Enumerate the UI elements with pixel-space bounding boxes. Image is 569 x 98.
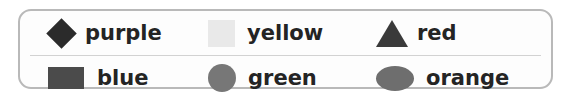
triangle-swatch-icon <box>376 20 408 47</box>
legend-item-label: purple <box>85 23 162 44</box>
legend-row: blue green orange <box>20 56 551 98</box>
legend-item-label: orange <box>426 68 509 89</box>
legend-item-blue[interactable]: blue <box>20 67 208 89</box>
legend-item-label: green <box>248 68 317 89</box>
circle-swatch-icon <box>208 64 236 92</box>
square-swatch-icon <box>208 20 235 47</box>
legend-panel: purple yellow red blue green orange <box>18 9 553 89</box>
legend-item-label: blue <box>97 68 148 89</box>
diamond-swatch-icon <box>46 18 77 49</box>
legend-row: purple yellow red <box>20 11 551 55</box>
legend-item-purple[interactable]: purple <box>20 20 208 47</box>
legend-item-orange[interactable]: orange <box>376 66 551 91</box>
legend-item-label: yellow <box>247 23 323 44</box>
legend-item-label: red <box>417 23 457 44</box>
ellipse-swatch-icon <box>376 66 414 91</box>
legend-item-green[interactable]: green <box>208 64 376 92</box>
legend-item-red[interactable]: red <box>376 20 551 47</box>
legend-item-yellow[interactable]: yellow <box>208 20 376 47</box>
rectangle-swatch-icon <box>48 67 84 89</box>
